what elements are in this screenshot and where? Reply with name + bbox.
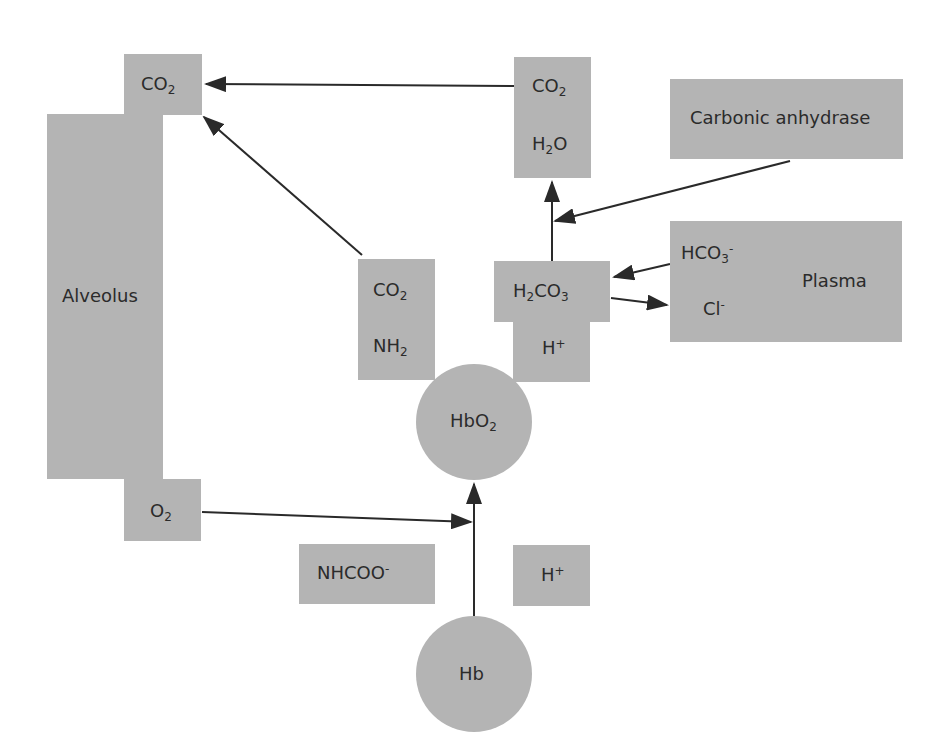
co2-h2o-co2-label: CO2 [532,76,566,96]
alveolus-o2-label: O2 [150,501,172,521]
nhcoo-label: NHCOO- [317,563,389,583]
carbamino-box [358,259,435,380]
arrow-o2-to-hb [202,512,471,522]
co2-h2o-h2o-label: H2O [532,134,567,154]
h2co3-label: H2CO3 [513,281,569,301]
carbamino-nh2-label: NH2 [373,336,408,356]
arrow-h2co3-to-chloride [611,298,667,305]
carbonic-anhydrase-label: Carbonic anhydrase [690,108,870,128]
chloride-label: Cl- [703,299,725,319]
plasma-box [670,221,902,342]
arrow-co2-to-alveolus [206,84,514,86]
carbamino-co2-label: CO2 [373,280,407,300]
hbo2-label: HbO2 [450,411,497,431]
alveolus-label: Alveolus [62,286,138,306]
plasma-label: Plasma [802,271,867,291]
alveolus-co2-label: CO2 [141,74,175,94]
h-plus-lower-label: H+ [541,565,565,585]
h-plus-upper-label: H+ [542,338,566,358]
bicarbonate-label: HCO3- [681,243,733,263]
hb-label: Hb [459,664,484,684]
arrow-bicarbonate-to-h2co3 [614,264,670,277]
arrow-carbamino-to-alveolus [204,117,362,255]
